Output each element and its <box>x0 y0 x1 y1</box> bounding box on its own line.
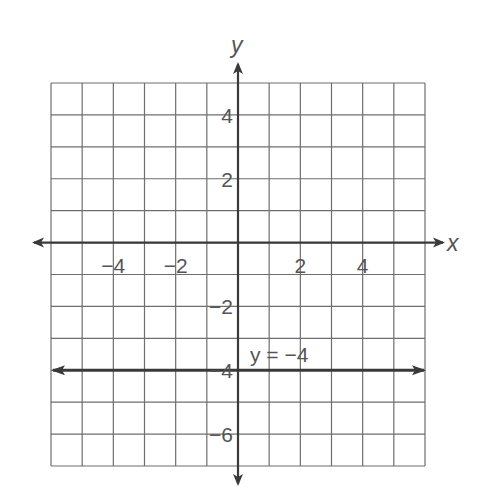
x-tick-labels: −4−224 <box>101 254 368 277</box>
coordinate-plane: −4−224 42−2−4−6 x y y = −4 <box>0 0 480 504</box>
y-axis-label: y <box>229 32 244 58</box>
y-tick-label: −2 <box>209 295 233 318</box>
line-annotation: y = −4 <box>250 343 309 366</box>
x-tick-label: 4 <box>357 254 369 277</box>
x-axis-label: x <box>446 230 460 256</box>
y-tick-label: 4 <box>221 104 233 127</box>
y-tick-label: 2 <box>221 168 233 191</box>
x-tick-label: 2 <box>294 254 306 277</box>
x-tick-label: −4 <box>101 254 125 277</box>
y-tick-label: −4 <box>209 359 233 382</box>
x-tick-label: −2 <box>164 254 188 277</box>
y-tick-label: −6 <box>209 423 233 446</box>
